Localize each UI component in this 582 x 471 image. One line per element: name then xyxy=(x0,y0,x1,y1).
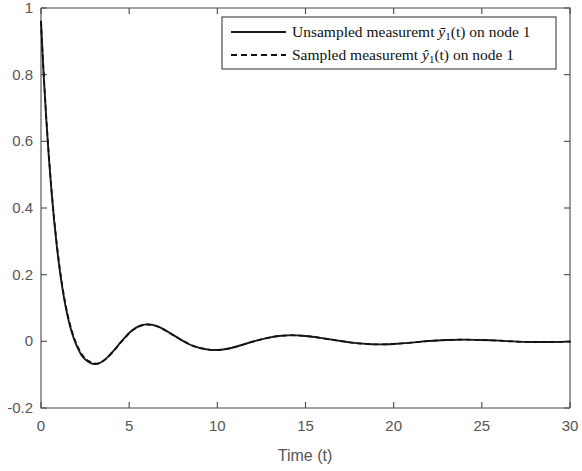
legend-label-unsampled: Unsampled measuremt ȳ1(t) on node 1 xyxy=(292,23,530,42)
y-tick-label: 0.4 xyxy=(12,199,33,216)
x-axis-tick-labels: 051015202530 xyxy=(37,417,579,434)
x-tick-label: 10 xyxy=(209,417,226,434)
y-tick-label: 0.6 xyxy=(12,132,33,149)
y-tick-label: 0.2 xyxy=(12,266,33,283)
y-tick-label: 0 xyxy=(25,332,33,349)
x-tick-label: 0 xyxy=(37,417,45,434)
x-tick-label: 20 xyxy=(385,417,402,434)
x-tick-label: 30 xyxy=(562,417,579,434)
y-axis-tick-labels: 10.80.60.40.20-0.2 xyxy=(7,0,33,416)
x-tick-label: 5 xyxy=(125,417,133,434)
chart-legend: Unsampled measuremt ȳ1(t) on node 1 Sam… xyxy=(222,17,556,69)
x-tick-label: 25 xyxy=(473,417,490,434)
x-axis-label: Time (t) xyxy=(278,447,333,464)
y-tick-label: 0.8 xyxy=(12,66,33,83)
chart-figure: 051015202530 10.80.60.40.20-0.2 Time (t)… xyxy=(0,0,582,471)
legend-label-sampled: Sampled measuremt ŷ1(t) on node 1 xyxy=(292,46,514,65)
y-tick-label: 1 xyxy=(25,0,33,16)
x-tick-label: 15 xyxy=(297,417,314,434)
y-tick-label: -0.2 xyxy=(7,399,33,416)
